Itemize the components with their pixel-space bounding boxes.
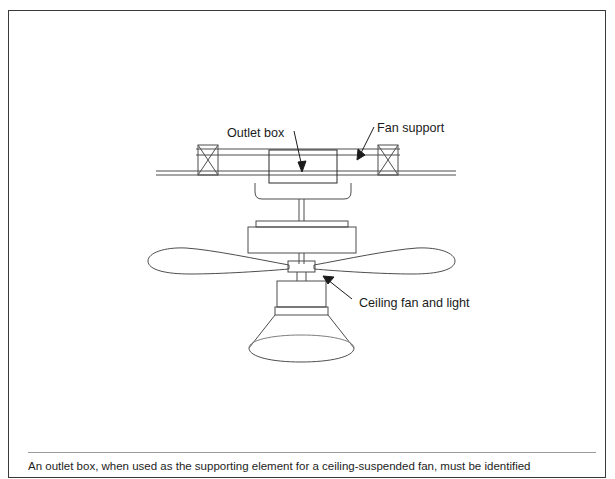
hub <box>288 261 315 272</box>
outlet-box-leader <box>294 131 306 172</box>
figure-area: Outlet box Fan support Ceiling fan and l… <box>8 10 606 450</box>
blade-right <box>314 248 455 274</box>
page: Outlet box Fan support Ceiling fan and l… <box>0 0 615 479</box>
downrod <box>299 199 304 221</box>
figure-caption: An outlet box, when used as the supporti… <box>28 459 600 474</box>
label-outlet-box: Outlet box <box>227 126 285 140</box>
label-ceiling-fan-and-light: Ceiling fan and light <box>359 296 470 310</box>
label-fan-support: Fan support <box>377 121 445 135</box>
caption-divider <box>28 452 596 453</box>
ceiling-fan-diagram: Outlet box Fan support Ceiling fan and l… <box>8 10 606 450</box>
light-neck <box>275 272 328 315</box>
downrod-lower <box>299 253 304 264</box>
light-shade <box>249 315 354 362</box>
ceiling-fan-leader <box>323 276 352 299</box>
blade-left <box>148 248 289 274</box>
canopy <box>255 183 351 199</box>
motor-housing <box>248 221 356 253</box>
ceiling-line <box>156 171 456 175</box>
